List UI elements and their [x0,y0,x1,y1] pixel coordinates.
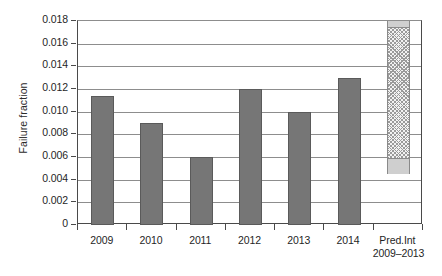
y-axis-tick [71,88,76,89]
pred-int-label-line1: Pred.Int [379,234,415,246]
x-axis-label-2009: 2009 [77,234,126,246]
x-axis-tick [176,224,177,230]
y-axis-tick-label: 0.012 [2,81,68,93]
pred-int-label-line2: 2009–2013 [373,247,422,259]
prediction-interval-hatch [388,27,409,160]
x-axis-tick [77,224,78,230]
x-axis-tick [225,224,226,230]
y-axis-tick-label: 0 [2,217,68,229]
plot-area [77,20,422,224]
y-axis-tick [71,179,76,180]
y-axis-tick-label: 0.018 [2,13,68,25]
y-axis-tick [71,156,76,157]
x-axis-tick [373,224,374,230]
x-axis-tick [274,224,275,230]
y-axis-tick [71,43,76,44]
y-axis-tick-label: 0.006 [2,149,68,161]
x-axis-label-pred-int: Pred.Int2009–2013 [373,234,422,259]
x-axis-tick [422,224,423,230]
y-axis-tick [71,133,76,134]
bar-2014 [338,78,361,225]
bar-2012 [239,89,262,225]
y-axis-tick-label: 0.010 [2,104,68,116]
x-axis-label-2014: 2014 [323,234,372,246]
x-axis-label-2012: 2012 [225,234,274,246]
y-axis-tick-label: 0.014 [2,58,68,70]
x-axis-label-2010: 2010 [126,234,175,246]
y-axis-tick [71,224,76,225]
bar-2010 [140,123,163,225]
bar-2013 [288,112,311,225]
bar-chart: Failure fraction 00.0020.0040.0060.0080.… [0,0,442,276]
bar-2009 [91,96,114,225]
gridline [78,44,421,45]
gridline [78,66,421,67]
y-axis-tick-label: 0.008 [2,126,68,138]
bar-2011 [190,157,213,225]
y-axis-tick [71,111,76,112]
y-axis-tick [71,201,76,202]
y-axis-tick-label: 0.004 [2,172,68,184]
y-axis-tick-label: 0.002 [2,194,68,206]
y-axis-tick [71,65,76,66]
x-axis-tick [323,224,324,230]
prediction-interval-bar [387,21,410,174]
y-axis-tick-label: 0.016 [2,36,68,48]
x-axis-tick [126,224,127,230]
x-axis-label-2011: 2011 [176,234,225,246]
x-axis-label-2013: 2013 [274,234,323,246]
y-axis-tick [71,20,76,21]
